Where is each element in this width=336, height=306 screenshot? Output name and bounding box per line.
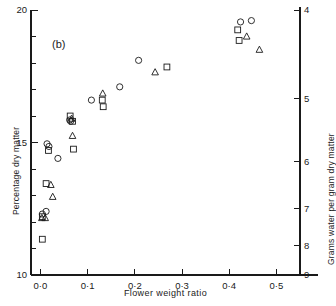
secondary-y-tick-label: 9 [304, 269, 309, 280]
y-tick-label: 20 [16, 4, 27, 15]
data-point-triangle [69, 132, 76, 138]
data-point-triangle [256, 46, 263, 52]
data-point-triangle [152, 69, 159, 75]
data-point-circle [237, 19, 243, 25]
data-point-circle [88, 97, 94, 103]
data-point-circle [55, 155, 61, 161]
data-point-square [235, 27, 241, 33]
secondary-y-tick-label: 7 [304, 203, 309, 214]
secondary-y-tick-label: 4 [304, 4, 309, 15]
secondary-y-tick-label: 6 [304, 156, 309, 167]
x-axis-title: Flower weight ratio [0, 288, 331, 298]
data-point-square [71, 146, 77, 152]
data-point-triangle [99, 90, 106, 96]
data-point-square [39, 236, 45, 242]
data-point-circle [117, 84, 123, 90]
secondary-y-axis-title: Grams water per gram dry matter [326, 133, 336, 265]
y-tick-label: 10 [16, 269, 27, 280]
series-circles [39, 18, 254, 218]
data-point-triangle [243, 33, 250, 39]
secondary-y-tick-label: 5 [304, 93, 309, 104]
data-point-triangle [49, 193, 56, 199]
panel-label: (b) [52, 38, 65, 50]
series-triangles [39, 33, 263, 221]
data-point-circle [248, 18, 254, 24]
data-point-square [236, 38, 242, 44]
data-point-circle [136, 57, 142, 63]
data-point-square [99, 97, 105, 103]
data-series-group [39, 18, 263, 243]
secondary-y-tick-label: 8 [304, 240, 309, 251]
data-point-square [100, 104, 106, 110]
series-squares [39, 27, 242, 242]
data-point-triangle [48, 181, 55, 187]
y-axis-title: Percentage dry matter [11, 127, 21, 215]
data-point-square [164, 64, 170, 70]
